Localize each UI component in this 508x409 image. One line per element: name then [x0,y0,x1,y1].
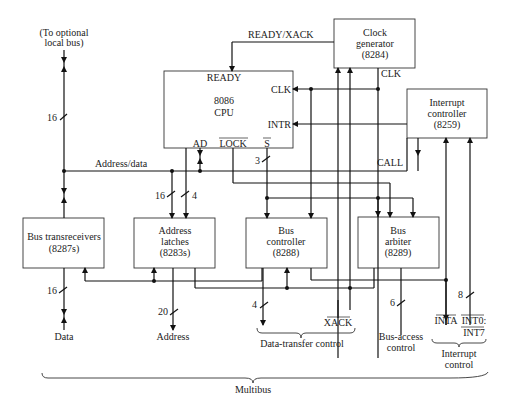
svg-text:generator: generator [356,38,394,49]
xack-label: XACK [324,317,353,328]
svg-text:4: 4 [192,190,197,201]
svg-text:Bus-access: Bus-access [379,331,424,342]
cpu-pin-intr: INTR [268,119,292,130]
svg-text:control: control [387,342,416,353]
svg-text:controller: controller [267,236,307,247]
address-label: Address [157,331,190,342]
svg-text:Clock: Clock [363,27,387,38]
svg-text:local bus): local bus) [44,37,83,49]
call-label: CALL [377,157,403,168]
svg-text:4: 4 [252,299,257,310]
svg-text:(8283s): (8283s) [160,247,191,259]
cpu-pin-ad: AD [193,138,207,149]
clock-generator-block: Clock generator (8284) [334,19,415,68]
svg-text:(8259): (8259) [434,119,461,131]
svg-text:6: 6 [390,297,395,308]
svg-text:control: control [445,359,474,370]
svg-text:(8284): (8284) [362,49,389,61]
data-label: Data [55,331,74,342]
svg-text:16: 16 [47,112,57,123]
svg-text:Address: Address [159,225,192,236]
bus-transceivers-block: Bus transreceivers (8287s) [23,218,104,268]
svg-text:(8287s): (8287s) [49,243,80,255]
data-transfer-control-label: Data-transfer control [260,338,344,349]
multibus-label: Multibus [235,384,271,395]
interrupt-controller-block: Interrupt controller (8259) [407,89,487,138]
local-bus-line: (To optional local bus) 16 [39,27,88,218]
int7-label: INT7 [463,327,485,338]
cpu-label-1: 8086 [214,95,234,106]
svg-text:READY/XACK: READY/XACK [248,29,314,40]
svg-text:Bus: Bus [278,225,294,236]
svg-text:16: 16 [155,190,165,201]
svg-text:Bus: Bus [390,225,406,236]
svg-text:controller: controller [428,108,468,119]
svg-text:(8288): (8288) [273,247,300,259]
cpu-block: READY 8086 CPU CLK INTR AD LOCK S [164,71,293,149]
svg-text:latches: latches [161,236,189,247]
cpu-label-2: CPU [214,107,234,118]
cpu-pin-s: S [264,138,270,149]
svg-text:arbiter: arbiter [385,236,412,247]
svg-text:(8289): (8289) [385,247,412,259]
inta-label: INTA [434,315,458,326]
svg-text:Address/data: Address/data [95,158,148,169]
svg-text:Interrupt: Interrupt [442,348,477,359]
svg-text:Interrupt: Interrupt [430,97,465,108]
svg-text:16: 16 [47,285,57,296]
svg-text:20: 20 [158,306,168,317]
cpu-pin-lock: LOCK [219,138,247,149]
clk-out-label: CLK [381,68,402,79]
block-diagram: READY 8086 CPU CLK INTR AD LOCK S Clock … [0,0,508,409]
address-latches-block: Address latches (8283s) [134,218,215,268]
bus-arbiter-block: Bus arbiter (8289) [358,217,439,268]
svg-text:3: 3 [255,155,260,166]
svg-text:8: 8 [458,289,463,300]
cpu-pin-ready: READY [207,72,241,83]
int0-label: INT0: [462,315,486,326]
bus-controller-block: Bus controller (8288) [246,218,327,268]
ready-xack-line: READY/XACK [232,29,334,71]
svg-text:Bus transreceivers: Bus transreceivers [27,231,101,242]
cpu-pin-clk: CLK [271,84,292,95]
